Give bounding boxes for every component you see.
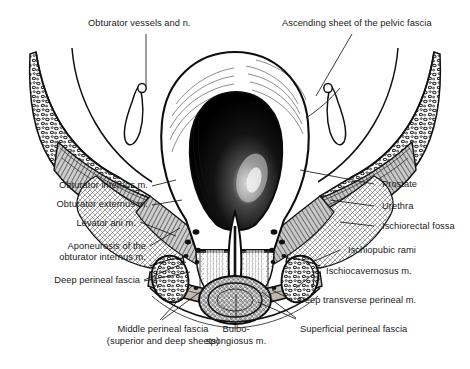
label-bulbospongiosus-line1: Bulbo- xyxy=(196,324,276,336)
label-urethra: Urethra xyxy=(382,201,413,213)
label-prostate: Prostate xyxy=(382,179,417,191)
label-ascending-sheet: Ascending sheet of the pelvic fascia xyxy=(282,18,432,30)
label-deep-transverse-perineal: Deep transverse perineal m. xyxy=(298,295,416,307)
label-aponeurosis-line1: Aponeurosis of the xyxy=(0,241,146,253)
label-obturator-externus: Obturator externus m. xyxy=(0,199,148,211)
label-aponeurosis-line2: obturator internus m. xyxy=(0,252,146,264)
anatomical-figure: Obturator vessels and n. Ascending sheet… xyxy=(0,0,470,369)
label-obturator-internus: Obturator internus m. xyxy=(0,180,148,192)
label-ischiorectal-fossa: Ischiorectal fossa xyxy=(382,221,455,233)
bulbospongiosus-muscle xyxy=(199,276,271,324)
label-ischiocavernosus: Ischiocavernosus m. xyxy=(326,266,412,278)
label-ischiopubic-rami: Ischiopubic rami xyxy=(348,245,416,257)
label-deep-perineal-fascia: Deep perineal fascia xyxy=(0,275,140,287)
label-bulbospongiosus-line2: spongiosus m. xyxy=(196,336,276,348)
label-obturator-vessels: Obturator vessels and n. xyxy=(88,18,191,30)
label-levator-ani: Levator ani m. xyxy=(0,218,136,230)
label-superficial-perineal-fascia: Superficial perineal fascia xyxy=(300,324,407,336)
leader-ascending-sheet xyxy=(316,34,352,96)
